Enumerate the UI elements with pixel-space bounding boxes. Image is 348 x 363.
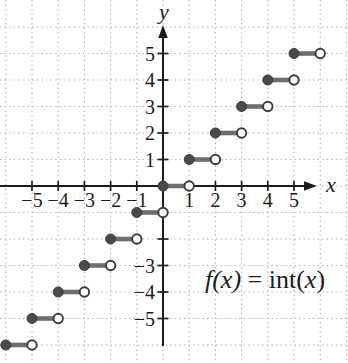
closed-endpoint-dot (79, 261, 89, 271)
closed-endpoint-dot (184, 155, 194, 165)
annotation-close-paren: ) (316, 265, 325, 294)
x-tick-label: −4 (48, 189, 69, 211)
chart-layers: −5−4−3−2−112345−5−4−312345 (0, 0, 348, 363)
x-tick-label: 2 (210, 189, 220, 211)
x-tick-label: −3 (74, 189, 95, 211)
open-endpoint-circle (54, 314, 63, 323)
open-endpoint-circle (263, 102, 272, 111)
y-tick-label: −4 (134, 281, 155, 303)
open-endpoint-circle (106, 261, 115, 270)
x-tick-label: −2 (100, 189, 121, 211)
step-function-figure: −5−4−3−2−112345−5−4−312345 y x f(x) = in… (0, 0, 348, 363)
y-tick-label: 1 (145, 149, 155, 171)
open-endpoint-circle (289, 75, 298, 84)
closed-endpoint-dot (106, 234, 116, 244)
annotation-fx: f(x) (205, 265, 241, 294)
y-tick-label: −5 (134, 308, 155, 330)
y-tick-label: 5 (145, 43, 155, 65)
open-endpoint-circle (80, 287, 89, 296)
open-endpoint-circle (132, 234, 141, 243)
closed-endpoint-dot (289, 49, 299, 59)
x-tick-label: 3 (237, 189, 247, 211)
open-endpoint-circle (316, 49, 325, 58)
y-tick-label: 4 (145, 69, 155, 91)
step-function-chart: −5−4−3−2−112345−5−4−312345 y x f(x) = in… (0, 0, 348, 363)
open-endpoint-circle (158, 208, 167, 217)
open-endpoint-circle (185, 181, 194, 190)
x-tick-label: 4 (263, 189, 273, 211)
x-axis-arrow (304, 181, 317, 191)
y-axis-label: y (157, 0, 169, 24)
x-tick-label: 5 (289, 189, 299, 211)
x-tick-label: 1 (184, 189, 194, 211)
open-endpoint-circle (211, 155, 220, 164)
x-tick-label: −5 (21, 189, 42, 211)
closed-endpoint-dot (158, 181, 168, 191)
closed-endpoint-dot (237, 102, 247, 112)
x-axis-label: x (325, 172, 336, 197)
closed-endpoint-dot (210, 128, 220, 138)
y-tick-label: −3 (134, 255, 155, 277)
function-annotation: f(x) = int(x) (205, 265, 325, 294)
closed-endpoint-dot (27, 314, 37, 324)
closed-endpoint-dot (263, 75, 273, 85)
y-tick-label: 3 (145, 96, 155, 118)
y-tick-label: 2 (145, 122, 155, 144)
open-endpoint-circle (27, 340, 36, 349)
annotation-x: x (304, 265, 317, 294)
annotation-eq-int: = int( (241, 265, 305, 294)
open-endpoint-circle (237, 128, 246, 137)
closed-endpoint-dot (1, 340, 11, 350)
closed-endpoint-dot (132, 208, 142, 218)
closed-endpoint-dot (53, 287, 63, 297)
